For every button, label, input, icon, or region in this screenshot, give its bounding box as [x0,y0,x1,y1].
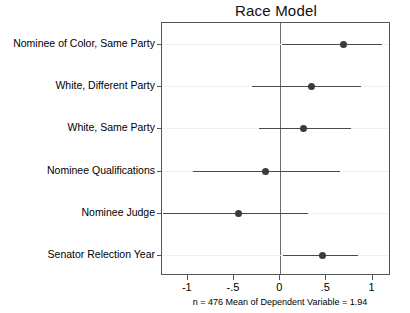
category-label-5: Nominee Judge [0,206,155,218]
coefficient-plot-figure: Race Model n = 476 Mean of Dependent Var… [0,0,410,313]
category-label-6: Senator Relection Year [0,248,155,260]
confidence-interval-bar [252,86,362,87]
zero-reference-line [280,23,281,274]
estimate-point [262,168,269,175]
x-axis-tick-label: .5 [305,281,345,294]
estimate-point [340,41,347,48]
category-tick [157,44,162,45]
category-tick [157,255,162,256]
category-label-2: White, Different Party [0,79,155,91]
estimate-point [235,210,242,217]
confidence-interval-bar [282,44,382,45]
category-label-4: Nominee Qualifications [0,164,155,176]
category-tick [157,128,162,129]
x-axis-tick [325,275,326,280]
x-axis-tick-label: 0 [259,281,299,294]
estimate-point [300,125,307,132]
estimate-point [308,83,315,90]
x-axis-tick-label: -.5 [213,281,253,294]
plot-area [161,22,390,275]
x-axis-tick-label: -1 [167,281,207,294]
category-tick [157,213,162,214]
category-tick [157,171,162,172]
estimate-point [319,252,326,259]
category-label-1: Nominee of Color, Same Party [0,37,155,49]
category-tick [157,86,162,87]
x-axis-tick [372,275,373,280]
chart-footnote: n = 476 Mean of Dependent Variable = 1.9… [161,297,399,308]
x-axis-tick [279,275,280,280]
category-label-3: White, Same Party [0,121,155,133]
page-title: Race Model [161,2,391,20]
x-axis-tick [187,275,188,280]
x-axis-tick-label: 1 [352,281,392,294]
x-axis-tick [233,275,234,280]
